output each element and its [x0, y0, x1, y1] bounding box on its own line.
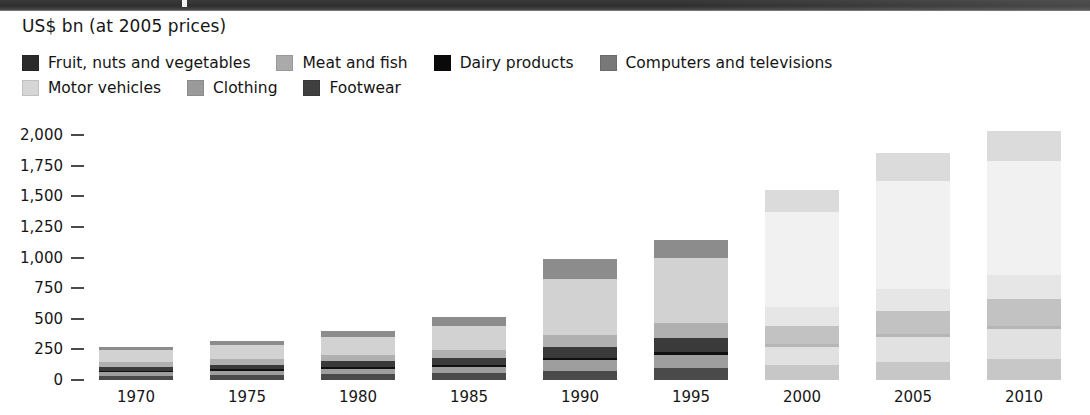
legend-swatch-dairy_products-icon [434, 55, 451, 71]
bar-segment-2005-fruit_nuts_vegetables [876, 311, 950, 334]
bar-group-2005[interactable] [876, 153, 950, 380]
bar-segment-1975-motor_vehicles [210, 345, 284, 359]
bar-segment-2000-dairy_products [765, 344, 839, 347]
scan-header-band [0, 0, 1090, 11]
bar-segment-1985-motor_vehicles [432, 326, 506, 350]
scan-artifact-nick [182, 0, 187, 7]
bar-segment-1990-footwear [543, 371, 617, 380]
bar-segment-2005-computers_and_televisions [876, 153, 950, 181]
y-axis-tick: 750 [34, 281, 88, 295]
legend-swatch-clothing-icon [187, 80, 204, 96]
bar-group-1975[interactable] [210, 341, 284, 380]
bar-segment-2010-clothing [987, 329, 1061, 358]
bar-segment-1970-clothing [99, 372, 173, 376]
bar-segment-2005-meat_and_fish [876, 289, 950, 311]
bar-segment-1980-motor_vehicles [321, 337, 395, 355]
bar-segment-1995-dairy_products [654, 352, 728, 355]
bar-segment-1985-dairy_products [432, 365, 506, 367]
legend-item-dairy_products[interactable]: Dairy products [434, 54, 574, 72]
bar-segment-1995-meat_and_fish [654, 323, 728, 338]
bar-segment-2005-clothing [876, 337, 950, 362]
y-axis-tick: 1,000 [20, 251, 88, 265]
bar-segment-2000-fruit_nuts_vegetables [765, 326, 839, 344]
legend-label: Computers and televisions [626, 54, 833, 72]
bar-segment-2010-fruit_nuts_vegetables [987, 299, 1061, 325]
y-axis-tick-mark [71, 348, 84, 350]
bar-segment-1990-computers_and_televisions [543, 259, 617, 279]
bar-segment-2005-dairy_products [876, 334, 950, 337]
y-axis-tick-mark [71, 195, 84, 197]
bar-segment-1980-clothing [321, 369, 395, 375]
bar-group-1970[interactable] [99, 347, 173, 380]
bar-group-1995[interactable] [654, 240, 728, 380]
bar-group-1980[interactable] [321, 331, 395, 380]
bar-group-1990[interactable] [543, 259, 617, 380]
bar-segment-1970-meat_and_fish [99, 362, 173, 367]
bar-segment-1995-fruit_nuts_vegetables [654, 338, 728, 352]
y-axis-tick: 2,000 [20, 128, 88, 142]
bar-segment-2005-footwear [876, 362, 950, 380]
plot-area: 2,0001,7501,5001,2501,0007505002500 [0, 126, 1090, 386]
y-axis-tick-mark [71, 257, 84, 259]
x-axis-tick-label-2010: 2010 [987, 388, 1061, 406]
bar-segment-2010-footwear [987, 359, 1061, 380]
legend-item-clothing[interactable]: Clothing [187, 79, 277, 97]
bar-segment-2010-motor_vehicles [987, 161, 1061, 275]
legend-label: Fruit, nuts and vegetables [48, 54, 250, 72]
y-axis-tick-label: 2,000 [20, 126, 63, 144]
bar-segment-1970-motor_vehicles [99, 350, 173, 362]
y-axis-tick: 250 [34, 342, 88, 356]
legend-label: Clothing [213, 79, 277, 97]
y-axis-tick-label: 1,500 [20, 187, 63, 205]
scan-artifact-fade [670, 0, 1090, 11]
legend-item-motor_vehicles[interactable]: Motor vehicles [22, 79, 161, 97]
legend-item-meat_and_fish[interactable]: Meat and fish [276, 54, 407, 72]
bar-segment-1975-dairy_products [210, 369, 284, 371]
legend-item-fruit_nuts_vegetables[interactable]: Fruit, nuts and vegetables [22, 54, 250, 72]
bar-segment-1970-fruit_nuts_vegetables [99, 367, 173, 371]
bar-segment-1990-dairy_products [543, 358, 617, 360]
bar-segment-1970-dairy_products [99, 371, 173, 372]
x-axis-tick-label-2000: 2000 [765, 388, 839, 406]
y-axis-tick: 1,750 [20, 159, 88, 173]
bar-segment-1980-footwear [321, 374, 395, 380]
bar-segment-1975-clothing [210, 371, 284, 375]
legend-row: Motor vehiclesClothingFootwear [22, 75, 1072, 100]
bar-segment-1980-meat_and_fish [321, 355, 395, 362]
bar-segment-2010-meat_and_fish [987, 275, 1061, 300]
bar-segment-1995-clothing [654, 355, 728, 368]
x-axis-tick-label-1995: 1995 [654, 388, 728, 406]
bar-group-1985[interactable] [432, 317, 506, 380]
bar-segment-1995-motor_vehicles [654, 258, 728, 323]
x-axis-tick-label-1975: 1975 [210, 388, 284, 406]
legend-item-computers_and_televisions[interactable]: Computers and televisions [600, 54, 833, 72]
bar-segment-2000-footwear [765, 365, 839, 380]
bar-segment-1985-computers_and_televisions [432, 317, 506, 326]
bar-segment-2010-dairy_products [987, 326, 1061, 330]
bar-segment-1990-meat_and_fish [543, 335, 617, 347]
y-axis-tick-mark [71, 134, 84, 136]
bar-segment-1995-footwear [654, 368, 728, 380]
legend-label: Footwear [329, 79, 401, 97]
bar-segment-1980-computers_and_televisions [321, 331, 395, 337]
bar-segment-1985-fruit_nuts_vegetables [432, 358, 506, 365]
bar-segment-1970-computers_and_televisions [99, 347, 173, 350]
bar-group-2000[interactable] [765, 190, 839, 380]
bar-group-2010[interactable] [987, 131, 1061, 380]
bar-segment-1970-footwear [99, 376, 173, 380]
y-axis-tick: 1,500 [20, 189, 88, 203]
bar-segment-1975-footwear [210, 375, 284, 380]
legend-row: Fruit, nuts and vegetablesMeat and fishD… [22, 50, 1072, 75]
x-axis-tick-label-1980: 1980 [321, 388, 395, 406]
legend-label: Meat and fish [302, 54, 407, 72]
y-axis-tick-mark [71, 287, 84, 289]
y-axis-tick-label: 1,000 [20, 249, 63, 267]
bar-segment-1995-computers_and_televisions [654, 240, 728, 258]
chart-legend: Fruit, nuts and vegetablesMeat and fishD… [22, 50, 1072, 100]
y-axis-tick-label: 1,250 [20, 218, 63, 236]
bar-segment-1975-fruit_nuts_vegetables [210, 365, 284, 369]
legend-item-footwear[interactable]: Footwear [303, 79, 401, 97]
y-axis-tick-label: 250 [34, 340, 63, 358]
y-axis-tick-mark [71, 165, 84, 167]
legend-label: Dairy products [460, 54, 574, 72]
